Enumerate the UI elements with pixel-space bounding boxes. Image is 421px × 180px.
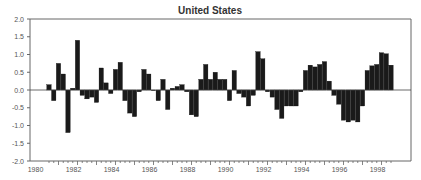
y-tick-label: 1.5 [14,33,24,40]
bar [128,90,132,113]
bar [275,90,279,110]
x-tick-label: 1980 [28,166,44,173]
bar [99,68,103,90]
bar-chart: United States 2.01.51.00.50.0-0.5-1.0-1.… [0,0,421,180]
bar [223,79,227,90]
bar [365,70,369,90]
bar [313,67,317,90]
bar [213,72,217,90]
bar [218,79,222,90]
bar [246,90,250,106]
bar [113,69,117,90]
bar-series [47,40,393,132]
y-tick-label: -1.0 [12,122,24,129]
bar [161,79,165,90]
x-tick-label: 1996 [332,166,348,173]
bar [389,65,393,90]
y-tick-label: -2.0 [12,158,24,165]
bar [346,90,350,122]
bar [75,40,79,90]
bar [379,53,383,90]
y-axis: 2.01.51.00.50.0-0.5-1.0-1.5-2.0 [12,16,30,165]
x-tick-label: 1992 [256,166,272,173]
bar [61,74,65,90]
bar [294,90,298,106]
bar [289,90,293,106]
bar [180,85,184,90]
bar [337,90,341,104]
bar [370,66,374,90]
bar [189,90,193,115]
bar [80,90,84,95]
bar [194,90,198,117]
x-tick-label: 1998 [370,166,386,173]
bar [199,79,203,90]
bar [384,54,388,90]
y-tick-label: 0.5 [14,69,24,76]
bar [132,90,136,117]
bar [147,74,151,90]
bar [204,64,208,90]
bar [318,64,322,90]
bar [66,90,70,133]
bar [142,69,146,90]
x-tick-label: 1982 [66,166,82,173]
x-tick-label: 1994 [294,166,310,173]
chart-title: United States [178,5,242,16]
bar [52,90,56,101]
y-tick-label: -0.5 [12,104,24,111]
bar [251,90,255,95]
bar [208,79,212,90]
bar [284,90,288,106]
bar [237,90,241,94]
bar [256,52,260,90]
bar [123,90,127,101]
bar [356,90,360,122]
bar [242,90,246,97]
y-tick-label: 2.0 [14,16,24,23]
y-tick-label: 0.0 [14,87,24,94]
bar [156,90,160,101]
bar [351,90,355,120]
bar [327,81,331,90]
x-tick-label: 1990 [218,166,234,173]
x-tick-label: 1984 [104,166,120,173]
x-tick-label: 1986 [142,166,158,173]
bar [232,70,236,90]
y-tick-label: -1.5 [12,140,24,147]
bar [332,90,336,95]
bar [322,62,326,90]
bar [375,64,379,90]
bar [227,90,231,101]
bar [166,90,170,110]
bar [90,90,94,97]
x-tick-label: 1988 [180,166,196,173]
bar [270,90,274,97]
bar [280,90,284,118]
bar [341,90,345,120]
bar [308,65,312,90]
bar [175,86,179,90]
bar [47,85,51,90]
bar [118,62,122,90]
bar [85,90,89,99]
bar [94,90,98,102]
bar [56,63,60,90]
bar [109,90,113,94]
bar [303,70,307,90]
bar [104,83,108,90]
x-axis: 1980198219841986198819901992199419961998 [28,161,411,173]
bar [360,90,364,106]
y-tick-label: 1.0 [14,51,24,58]
bar [261,59,265,90]
